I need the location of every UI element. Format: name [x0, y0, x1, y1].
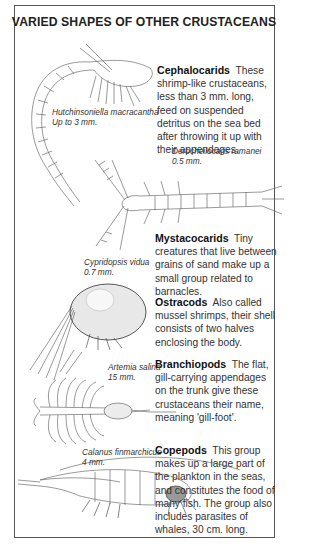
- section-heading: Copepods: [155, 444, 207, 456]
- caption-artemia: Artemia salina 15 mm.: [108, 362, 161, 382]
- section-mystacocarids: Mystacocarids Tiny creatures that live b…: [155, 232, 277, 298]
- caption-hutchinsoniella: Hutchinsoniella macracantha Up to 3 mm.: [52, 107, 159, 127]
- section-cephalocarids: Cephalocarids These shrimp-like crustace…: [157, 64, 275, 156]
- caption-species: Artemia salina: [108, 362, 161, 372]
- section-copepods: Copepods This group makes up a large par…: [155, 444, 277, 536]
- section-heading: Branchiopods: [155, 358, 226, 370]
- caption-size: 0.5 mm.: [172, 156, 261, 166]
- caption-species: Hutchinsoniella macracantha: [52, 107, 159, 117]
- section-heading: Ostracods: [155, 296, 207, 308]
- caption-species: Cypridopsis vidua: [84, 257, 149, 267]
- caption-size: 4 mm.: [82, 457, 161, 467]
- caption-derocheilocaris: Derocheilocaris ramanei 0.5 mm.: [172, 146, 261, 166]
- section-heading: Cephalocarids: [157, 64, 230, 76]
- section-branchiopods: Branchiopods The flat, gill-carrying app…: [155, 358, 277, 424]
- caption-species: Calanus finmarchicus: [82, 447, 161, 457]
- caption-species: Derocheilocaris ramanei: [172, 146, 261, 156]
- caption-cypridopsis: Cypridopsis vidua 0.7 mm.: [84, 257, 149, 277]
- section-text: These shrimp-like crustaceans, less than…: [157, 65, 267, 155]
- section-ostracods: Ostracods Also called mussel shrimps, th…: [155, 296, 277, 349]
- section-text: This group makes up a large part of the …: [155, 445, 275, 535]
- caption-size: Up to 3 mm.: [52, 117, 159, 127]
- caption-calanus: Calanus finmarchicus 4 mm.: [82, 447, 161, 467]
- section-heading: Mystacocarids: [155, 232, 229, 244]
- caption-size: 0.7 mm.: [84, 267, 149, 277]
- caption-size: 15 mm.: [108, 372, 161, 382]
